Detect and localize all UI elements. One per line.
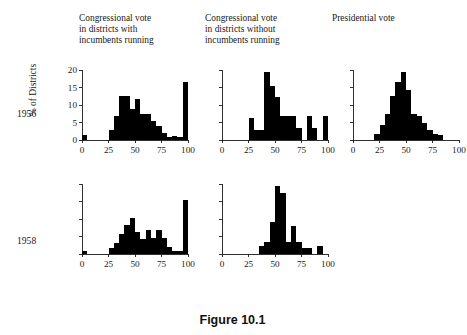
x-tick-label: 25 <box>244 259 254 269</box>
x-tick-label: 25 <box>375 145 385 155</box>
bars-group <box>82 82 188 140</box>
y-tick-label: 15 <box>68 83 78 93</box>
histogram-bar <box>307 248 312 254</box>
histogram-bar <box>264 242 269 254</box>
histogram-bar <box>82 251 87 255</box>
histogram-bar <box>162 133 167 140</box>
histogram-bar <box>130 109 135 141</box>
x-tick-label: 100 <box>321 259 335 269</box>
histogram-bar <box>135 99 140 140</box>
histogram-bar <box>302 248 307 254</box>
histogram-bar <box>286 242 291 254</box>
histogram-bar <box>380 125 385 140</box>
histogram-bar <box>433 134 438 140</box>
histogram-bar <box>167 247 172 254</box>
histogram-svg: 0255075100 <box>206 180 336 270</box>
x-tick-label: 50 <box>401 145 411 155</box>
histogram-bar <box>312 128 317 140</box>
y-tick-label: 20 <box>68 65 78 75</box>
histogram-bar <box>259 130 264 140</box>
histogram-bar <box>286 116 291 140</box>
histogram-bar <box>249 118 254 140</box>
histogram-bar <box>307 116 312 140</box>
histogram-bar <box>162 238 167 254</box>
histogram-bar <box>280 116 285 140</box>
histogram-bar <box>406 90 411 140</box>
histogram-bar <box>135 232 140 254</box>
histogram-bar <box>124 225 129 254</box>
histogram-bar <box>395 82 400 140</box>
x-tick-label: 0 <box>80 145 85 155</box>
x-tick-label: 75 <box>157 259 167 269</box>
histogram-bar <box>151 238 156 254</box>
column-title-presidential: Presidential vote <box>332 13 450 24</box>
histogram-bar <box>401 72 406 140</box>
x-tick-label: 75 <box>157 145 167 155</box>
histogram-panel-1958-without-incumbents: 0255075100 <box>206 180 336 270</box>
histogram-bar <box>275 97 280 140</box>
x-tick-label: 50 <box>130 145 140 155</box>
histogram-bar <box>296 242 301 254</box>
histogram-svg: 0255075100 <box>337 66 467 156</box>
x-tick-label: 25 <box>104 145 114 155</box>
histogram-bar <box>417 116 422 141</box>
figure-caption: Figure 10.1 <box>0 313 465 327</box>
histogram-bar <box>254 130 259 140</box>
y-tick-label: 10 <box>68 100 78 110</box>
histogram-bar <box>422 123 427 141</box>
histogram-bar <box>119 234 124 254</box>
x-tick-label: 50 <box>270 145 280 155</box>
x-tick-label: 100 <box>452 145 466 155</box>
histogram-bar <box>177 251 182 255</box>
histogram-bar <box>183 82 188 140</box>
y-axis-title: % of Districts <box>28 50 38 130</box>
histogram-bar <box>146 230 151 255</box>
histogram-bar <box>270 86 275 140</box>
x-tick-label: 0 <box>351 145 356 155</box>
histogram-bar <box>374 134 379 140</box>
histogram-bar <box>264 72 269 140</box>
histogram-bar <box>259 246 264 254</box>
histogram-svg: 051015200255075100 <box>66 66 196 156</box>
histogram-bar <box>146 114 151 140</box>
histogram-bar <box>280 193 285 254</box>
bars-group <box>259 186 323 254</box>
histogram-panel-1956-without-incumbents: 0255075100 <box>206 66 336 156</box>
histogram-bar <box>438 135 443 140</box>
histogram-bar <box>119 96 124 140</box>
column-title-congressional-without-incumbents: Congressional vote in districts without … <box>205 13 323 47</box>
histogram-svg: 0255075100 <box>206 66 336 156</box>
x-tick-label: 100 <box>321 145 335 155</box>
histogram-bar <box>151 121 156 140</box>
x-tick-label: 100 <box>181 259 195 269</box>
histogram-panel-1958-with-incumbents: 0255075100 <box>66 180 196 270</box>
histogram-bar <box>275 186 280 254</box>
histogram-bar <box>140 239 145 254</box>
histogram-bar <box>124 96 129 140</box>
histogram-bar <box>296 128 301 140</box>
histogram-bar <box>323 116 328 140</box>
histogram-bar <box>109 248 114 254</box>
histogram-bar <box>156 126 161 140</box>
histogram-bar <box>427 130 432 141</box>
histogram-bar <box>82 135 87 140</box>
histogram-bar <box>390 96 395 140</box>
histogram-bar <box>172 251 177 255</box>
histogram-bar <box>167 137 172 141</box>
x-tick-label: 100 <box>181 145 195 155</box>
histogram-bar <box>140 114 145 140</box>
histogram-bar <box>291 116 296 140</box>
histogram-bar <box>291 226 296 254</box>
x-tick-label: 75 <box>297 145 307 155</box>
histogram-svg: 0255075100 <box>66 180 196 270</box>
histogram-bar <box>270 222 275 254</box>
x-tick-label: 0 <box>220 259 225 269</box>
x-tick-label: 50 <box>130 259 140 269</box>
histogram-panel-1956-presidential: 0255075100 <box>337 66 467 156</box>
histogram-panel-1956-with-incumbents: 051015200255075100 <box>66 66 196 156</box>
histogram-bar <box>114 243 119 254</box>
y-tick-label: 5 <box>72 118 77 128</box>
x-tick-label: 75 <box>428 145 438 155</box>
y-tick-label: 0 <box>72 135 77 145</box>
